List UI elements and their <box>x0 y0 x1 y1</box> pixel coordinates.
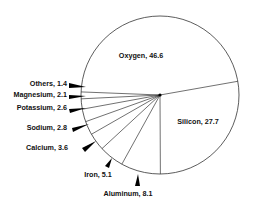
pie-center <box>158 93 161 96</box>
pie-chart: Oxygen, 46.6Silicon, 27.7Aluminum, 8.1Ir… <box>0 0 254 209</box>
label-iron: Iron, 5.1 <box>84 170 112 179</box>
pointer-arrow-icon <box>72 124 89 132</box>
pointer-arrow-icon <box>105 158 112 168</box>
label-calcium: Calcium, 3.6 <box>26 143 68 152</box>
label-silicon: Silicon, 27.7 <box>177 117 219 126</box>
pointer-arrow-icon <box>135 174 140 186</box>
label-sodium: Sodium, 2.8 <box>27 123 67 132</box>
pointer-arrow-icon <box>82 141 96 152</box>
label-others: Others, 1.4 <box>30 79 67 88</box>
label-potassium: Potassium, 2.6 <box>17 103 67 112</box>
pie-slices <box>81 16 239 174</box>
label-aluminum: Aluminum, 8.1 <box>103 189 152 198</box>
label-oxygen: Oxygen, 46.6 <box>119 51 163 60</box>
label-magnesium: Magnesium, 2.1 <box>13 90 67 99</box>
pie-chart-svg: Oxygen, 46.6Silicon, 27.7Aluminum, 8.1Ir… <box>0 0 254 209</box>
